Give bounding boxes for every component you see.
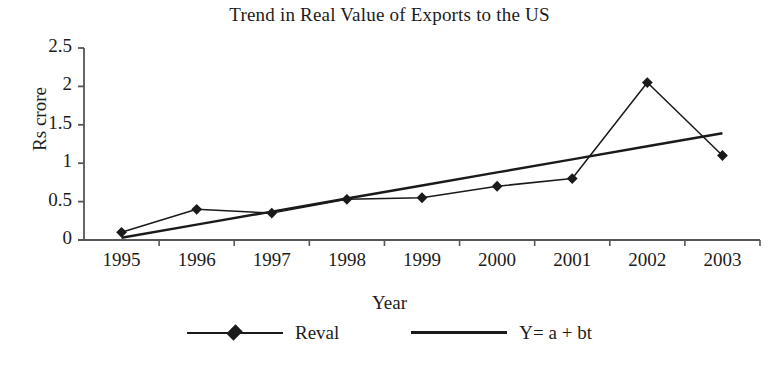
x-tick-label: 1998 [307,249,387,271]
y-tick-label: 1.5 [26,112,72,134]
x-tick-label: 1995 [82,249,162,271]
data-point-marker [191,204,202,215]
legend-entry-reval[interactable]: Reval [187,322,339,344]
legend-label-trend: Y= a + bt [519,322,592,344]
y-tick-label: 2 [26,73,72,95]
x-tick-label: 2003 [682,249,762,271]
diamond-marker-icon [226,324,242,340]
series-line-reval [122,83,723,233]
x-tick-label: 1996 [157,249,237,271]
x-tick-label: 1997 [232,249,312,271]
data-point-marker [492,181,503,192]
legend-entry-trend[interactable]: Y= a + bt [411,322,592,344]
data-series [116,77,728,238]
x-tick-label: 2001 [532,249,612,271]
series-line-y-a-bt [122,133,723,237]
x-tick-label: 2000 [457,249,537,271]
chart-figure: Trend in Real Value of Exports to the US… [0,0,779,378]
legend-line-thick-icon [411,331,507,334]
x-tick-label: 2002 [607,249,687,271]
legend-marker-diamond-line [187,325,283,341]
data-point-marker [417,192,428,203]
y-tick-label: 0 [26,227,72,249]
x-tick-label: 1999 [382,249,462,271]
y-tick-label: 0.5 [26,189,72,211]
chart-title: Trend in Real Value of Exports to the US [0,4,779,26]
y-tick-label: 1 [26,150,72,172]
legend-marker-line [411,325,507,341]
x-axis-label: Year [0,292,779,314]
y-tick-label: 2.5 [26,35,72,57]
axes [78,48,760,246]
chart-legend: Reval Y= a + bt [0,322,779,344]
legend-label-reval: Reval [295,322,339,344]
